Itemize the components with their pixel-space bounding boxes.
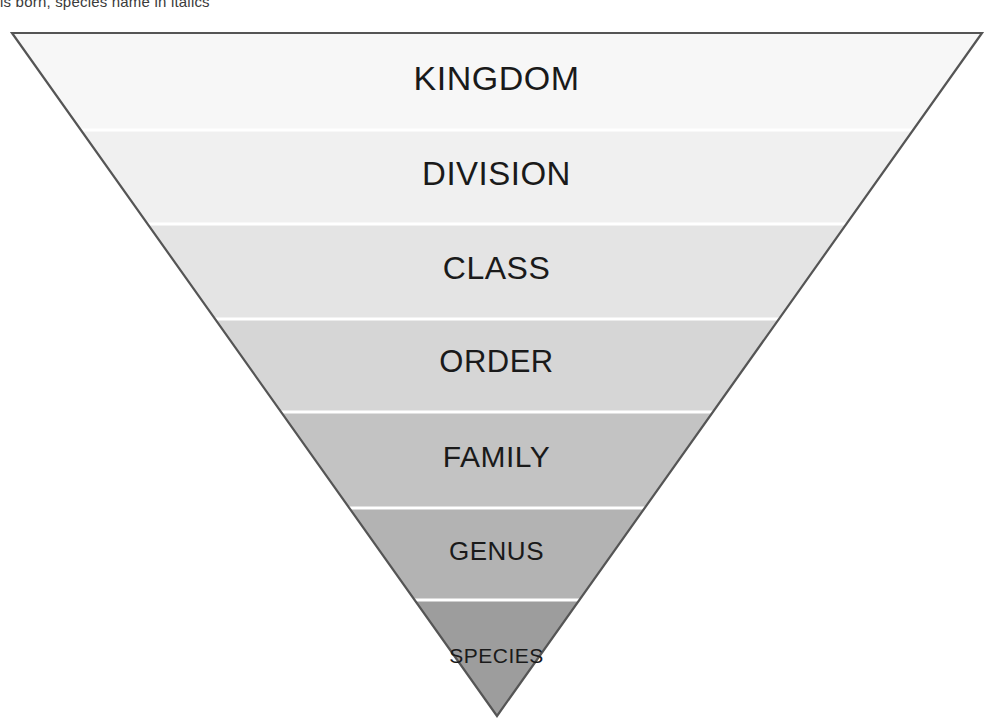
pyramid-band-division (81, 130, 913, 224)
pyramid-band-species (415, 600, 580, 716)
pyramid-bands (12, 33, 982, 716)
pyramid-band-genus (349, 508, 644, 600)
pyramid-band-class (148, 224, 847, 319)
pyramid-band-order (215, 319, 779, 412)
taxonomy-pyramid-diagram: is born, species name in italics KINGDOM… (0, 0, 993, 720)
pyramid-band-kingdom (12, 33, 982, 130)
inverted-pyramid-graphic (0, 0, 993, 720)
pyramid-band-family (281, 412, 713, 508)
